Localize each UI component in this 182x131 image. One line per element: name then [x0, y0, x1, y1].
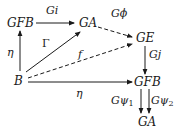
node-gfb-right: GFB	[134, 76, 161, 88]
label-gi: Gi	[46, 5, 58, 16]
node-gfb-top: GFB	[7, 17, 34, 29]
node-ga-top: GA	[79, 17, 97, 29]
commutative-diagram: GFB GA GE B GFB GA Gi Gϕ η Γ f Gj η Gψ1 …	[0, 0, 182, 131]
label-eta-left: η	[7, 47, 14, 58]
node-ga-bottom: GA	[138, 116, 156, 128]
label-gpsi2: Gψ2	[151, 95, 174, 108]
label-gj: Gj	[149, 49, 161, 60]
label-f: f	[78, 49, 82, 60]
label-gamma: Γ	[42, 38, 50, 49]
node-ge: GE	[136, 32, 154, 44]
label-gpsi1-base: Gψ	[111, 94, 128, 107]
label-gphi: Gϕ	[111, 8, 127, 19]
label-gpsi1-sub: 1	[128, 99, 133, 108]
node-b: B	[14, 75, 23, 87]
label-gpsi1: Gψ1	[111, 95, 134, 108]
label-eta-bottom: η	[76, 88, 83, 99]
label-gpsi2-sub: 2	[168, 99, 173, 108]
arrow-gamma	[26, 32, 80, 72]
arrow-gphi	[98, 27, 132, 37]
label-gpsi2-base: Gψ	[151, 94, 168, 107]
